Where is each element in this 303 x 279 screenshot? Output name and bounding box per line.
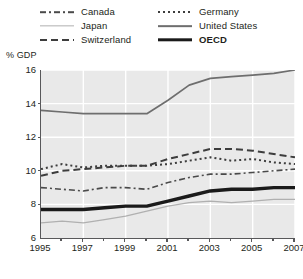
x-tick-mark-2001 (166, 238, 167, 242)
x-axis-ticks: 1995199719992001200320052007 (40, 240, 294, 260)
x-tick-mark-2003 (209, 238, 210, 242)
x-tick-mark-2007 (293, 238, 294, 242)
x-tick-mark-minor-2002 (187, 238, 188, 241)
x-tick-mark-minor-2000 (145, 238, 146, 241)
x-tick-label-1995: 1995 (29, 243, 50, 253)
legend-swatch-germany-icon (158, 7, 192, 17)
x-tick-mark-minor-1996 (60, 238, 61, 241)
x-tick-label-2003: 2003 (199, 243, 220, 253)
chart-figure: Canada Germany Japan United States Switz… (0, 0, 303, 279)
x-tick-mark-minor-1998 (103, 238, 104, 241)
legend-label-oecd: OECD (199, 35, 227, 45)
legend-swatch-united-states-icon (158, 21, 192, 31)
plot-lines (41, 70, 295, 238)
chart-legend: Canada Germany Japan United States Switz… (40, 5, 298, 47)
legend-item-canada: Canada (40, 5, 158, 19)
y-tick-label-12: 12 (6, 132, 36, 142)
x-tick-label-2001: 2001 (156, 243, 177, 253)
legend-label-germany: Germany (199, 7, 239, 17)
legend-label-japan: Japan (81, 21, 107, 31)
x-tick-label-1999: 1999 (114, 243, 135, 253)
x-tick-mark-2005 (251, 238, 252, 242)
legend-swatch-switzerland-icon (40, 35, 74, 45)
x-tick-label-2007: 2007 (283, 243, 303, 253)
x-tick-label-1997: 1997 (72, 243, 93, 253)
legend-item-united-states: United States (158, 19, 298, 33)
legend-swatch-canada-icon (40, 7, 74, 17)
plot-area (40, 70, 295, 239)
legend-item-japan: Japan (40, 19, 158, 33)
legend-swatch-japan-icon (40, 21, 74, 31)
y-tick-label-16: 16 (6, 65, 36, 75)
legend-label-united-states: United States (199, 21, 257, 31)
x-tick-mark-minor-2004 (230, 238, 231, 241)
legend-item-oecd: OECD (158, 33, 298, 47)
y-tick-label-14: 14 (6, 99, 36, 109)
y-tick-label-8: 8 (6, 199, 36, 209)
x-tick-mark-minor-2006 (272, 238, 273, 241)
x-tick-mark-1999 (124, 238, 125, 242)
legend-label-switzerland: Switzerland (81, 35, 131, 45)
y-tick-label-10: 10 (6, 166, 36, 176)
legend-item-germany: Germany (158, 5, 298, 19)
x-tick-label-2005: 2005 (241, 243, 262, 253)
legend-label-canada: Canada (81, 7, 115, 17)
legend-swatch-oecd-icon (158, 35, 192, 45)
x-tick-mark-1997 (82, 238, 83, 242)
legend-item-switzerland: Switzerland (40, 33, 158, 47)
y-axis-ticks: 6810121416 (0, 0, 36, 279)
